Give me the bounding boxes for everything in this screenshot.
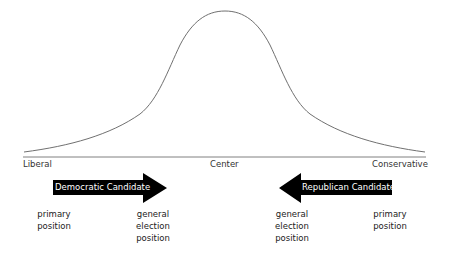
axis-label-conservative: Conservative [372, 159, 428, 169]
rep-primary-position-label: primary position [368, 208, 412, 232]
dem-primary-position-label: primary position [32, 208, 76, 232]
bell-curve [24, 11, 425, 152]
rep-general-position-label: general election position [270, 208, 314, 244]
democratic-candidate-label: Democratic Candidate [55, 181, 150, 194]
dem-general-position-label: general election position [131, 208, 175, 244]
republican-candidate-label: Republican Candidate [302, 181, 395, 194]
axis-label-liberal: Liberal [23, 159, 52, 169]
voter-distribution-diagram: Liberal Center Conservative Democratic C… [0, 0, 449, 258]
axis-label-center: Center [210, 159, 239, 169]
